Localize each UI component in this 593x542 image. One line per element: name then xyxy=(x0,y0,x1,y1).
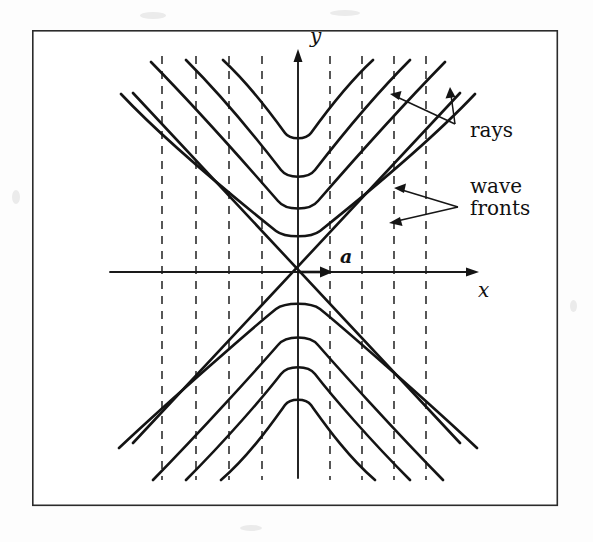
wave-fronts-label-line1: wave xyxy=(470,174,522,198)
vector-a-label: a xyxy=(340,245,352,267)
x-axis-label: x xyxy=(478,278,489,302)
wave-fronts-label-line2: fronts xyxy=(470,196,530,220)
rays-label: rays xyxy=(470,118,513,142)
figure-page: y x a rays wave fronts xyxy=(0,0,593,542)
wave-front-diagram: y x a rays wave fronts xyxy=(0,0,593,542)
y-axis-label: y xyxy=(309,24,322,48)
